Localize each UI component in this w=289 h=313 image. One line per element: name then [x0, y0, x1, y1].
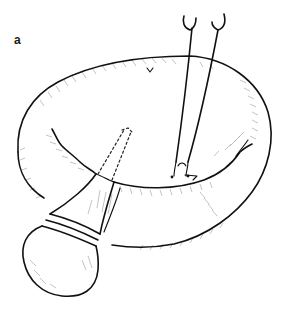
shading-hatches: [20, 58, 258, 288]
dashed-insertion-path: [98, 128, 132, 180]
ring-cushion: [18, 56, 271, 247]
illustration: [0, 0, 289, 313]
